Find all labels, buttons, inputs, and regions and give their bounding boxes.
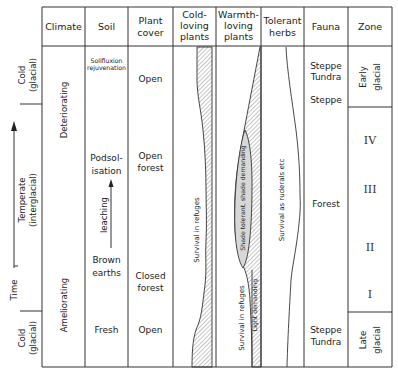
header-tolerant-herbs-1: Tolerant — [263, 15, 302, 26]
header-fauna: Fauna — [312, 21, 340, 32]
header-warmth-loving-1: Warmth- — [218, 9, 259, 20]
header-cold-loving-3: plants — [180, 31, 209, 42]
header-warmth-loving-2: loving — [224, 20, 253, 31]
cover-open-bottom: Open — [138, 325, 162, 335]
warmth-refuges-label: Survival in refuges — [238, 285, 246, 351]
leaching-arrow-icon — [109, 179, 114, 187]
soil-brown-earths-2: earths — [92, 268, 121, 278]
plant-cover-column: Open Open forest Closed forest Open — [135, 74, 165, 335]
phase-cold-bottom-1: Cold — [17, 329, 27, 348]
fauna-steppe-tundra-top-2: Tundra — [310, 72, 341, 82]
fauna-steppe-tundra-bottom-2: Tundra — [310, 337, 341, 347]
climate-ameliorating: Ameliorating — [59, 278, 69, 332]
zone-ii: II — [366, 241, 375, 254]
warmth-loving-column: Shade tolerant, shade demanding Survival… — [235, 47, 261, 367]
soil-solifluxion-2: rejuvenation — [87, 64, 126, 72]
zone-iii: III — [363, 183, 376, 196]
zone-late-glacial-2: glacial — [372, 326, 382, 354]
soil-leaching: leaching — [99, 197, 109, 233]
time-arrow-icon — [11, 121, 17, 131]
phase-cold-top-2: (glacial) — [28, 58, 38, 92]
phase-temperate-1: Temperate — [17, 177, 27, 223]
climate-deteriorating: Deteriorating — [59, 82, 69, 139]
soil-brown-earths-1: Brown — [92, 255, 120, 265]
cover-open-forest-2: forest — [138, 163, 164, 173]
zone-i: I — [368, 288, 372, 301]
zone-early-glacial-1: Early — [358, 66, 368, 87]
header-plant-cover-2: cover — [137, 27, 164, 38]
cold-loving-label: Survival in refuges — [193, 197, 201, 263]
header-tolerant-herbs-2: herbs — [269, 27, 296, 38]
time-label: Time — [9, 280, 19, 302]
fauna-steppe-tundra-top-1: Steppe — [310, 61, 342, 71]
tolerant-herbs-column: Survival as ruderals etc — [278, 47, 300, 367]
cold-loving-column: Survival in refuges — [192, 47, 212, 367]
header-climate: Climate — [45, 21, 82, 32]
soil-column: Solifluxion rejuvenation Podsol- isation… — [87, 57, 126, 335]
tolerant-herbs-label: Survival as ruderals etc — [278, 159, 286, 242]
warmth-light-label: Light demanding — [251, 279, 259, 331]
soil-podsolisation-1: Podsol- — [90, 153, 122, 163]
climate-column: Deteriorating Ameliorating — [59, 82, 69, 333]
header-row: Climate Soil Plant cover Cold- loving pl… — [45, 9, 382, 42]
soil-solifluxion-1: Solifluxion — [90, 57, 122, 64]
fauna-steppe: Steppe — [310, 95, 342, 105]
header-cold-loving-2: loving — [180, 20, 209, 31]
zone-late-glacial-1: Late — [358, 331, 368, 350]
header-warmth-loving-3: plants — [224, 31, 253, 42]
header-soil: Soil — [98, 21, 115, 32]
header-plant-cover-1: Plant — [139, 15, 163, 26]
header-cold-loving-1: Cold- — [182, 9, 207, 20]
tolerant-herbs-line — [286, 47, 300, 367]
cover-closed-forest-1: Closed — [135, 271, 165, 281]
header-zone: Zone — [358, 21, 382, 32]
fauna-steppe-tundra-bottom-1: Steppe — [310, 325, 342, 335]
fauna-column: Steppe Tundra Steppe Forest Steppe Tundr… — [310, 61, 343, 347]
soil-podsolisation-2: isation — [92, 166, 122, 176]
soil-fresh: Fresh — [95, 325, 119, 335]
phase-cold-bottom-2: (glacial) — [28, 321, 38, 355]
succession-diagram: Climate Soil Plant cover Cold- loving pl… — [0, 0, 398, 372]
warmth-shade-label: Shade tolerant, shade demanding — [239, 145, 247, 250]
cover-open-top: Open — [138, 74, 162, 84]
phase-cold-top-1: Cold — [17, 66, 27, 85]
cover-open-forest-1: Open — [138, 151, 162, 161]
phase-temperate-2: (interglacial) — [28, 173, 38, 227]
cover-closed-forest-2: forest — [138, 283, 164, 293]
zone-early-glacial-2: glacial — [372, 63, 382, 91]
zone-iv: IV — [364, 134, 377, 147]
fauna-forest: Forest — [312, 199, 340, 209]
